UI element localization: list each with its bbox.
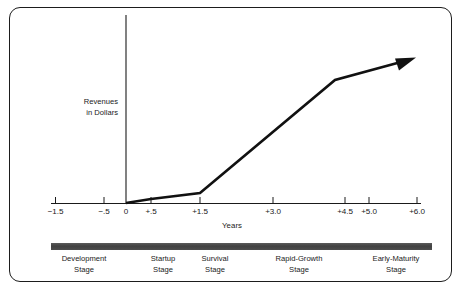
x-tick-label-0: 0: [124, 207, 128, 216]
y-axis-title: Revenues in Dollars: [84, 97, 118, 118]
x-tick-label-4.5: +4.5: [337, 207, 353, 216]
stage-label-startup-line2: Stage: [151, 265, 175, 276]
stage-label-development-line1: Development: [62, 254, 107, 263]
stage-label-rapid-growth-line1: Rapid-Growth: [276, 254, 323, 263]
revenue-line-arrowhead: [395, 58, 416, 71]
stage-label-development-line2: Stage: [62, 265, 107, 276]
x-tick-label-5.0: +5.0: [361, 207, 377, 216]
x-tick-label-6.0: +6.0: [409, 207, 425, 216]
figure-root: Revenues in Dollars −1.5 −.5 0 +.5 +1.5 …: [0, 0, 465, 291]
x-axis-ticks: [56, 197, 418, 204]
x-tick-label-1.5: +1.5: [192, 207, 208, 216]
stage-label-rapid-growth-line2: Stage: [276, 265, 323, 276]
x-tick-label--0.5: −.5: [98, 207, 109, 216]
y-axis-title-line1: Revenues: [84, 97, 118, 108]
stage-label-development: Development Stage: [62, 254, 107, 275]
revenue-line: [126, 62, 401, 203]
stage-timeline-bar: [51, 243, 432, 250]
stage-label-early-maturity: Early-Maturity Stage: [373, 254, 420, 275]
stage-labels-group: Development Stage Startup Stage Survival…: [51, 254, 432, 284]
x-tick-label-3.0: +3.0: [265, 207, 281, 216]
x-axis-title: Years: [222, 221, 242, 230]
stage-label-early-maturity-line2: Stage: [373, 265, 420, 276]
x-tick-label-0.5: +.5: [145, 207, 156, 216]
stage-label-startup: Startup Stage: [151, 254, 175, 275]
stage-label-startup-line1: Startup: [151, 254, 175, 263]
stage-label-rapid-growth: Rapid-Growth Stage: [276, 254, 323, 275]
x-tick-label--1.5: −1.5: [48, 207, 64, 216]
y-axis-title-line2: in Dollars: [84, 108, 118, 119]
stage-label-survival: Survival Stage: [201, 254, 228, 275]
stage-label-survival-line1: Survival: [201, 254, 228, 263]
stage-label-survival-line2: Stage: [201, 265, 228, 276]
stage-label-early-maturity-line1: Early-Maturity: [373, 254, 420, 263]
